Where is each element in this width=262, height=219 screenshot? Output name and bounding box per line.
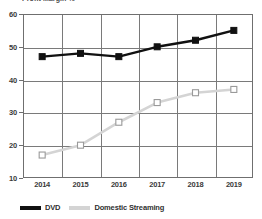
x-axis-tick-label: 2018 [188,180,204,189]
data-point-marker [116,54,122,60]
line-chart: Profit Margin % 102030405060 20142015201… [0,0,262,219]
data-point-marker [116,119,122,125]
series-line [42,30,234,56]
legend-swatch-icon [69,206,90,210]
legend-item[interactable]: Domestic Streaming [69,203,164,212]
chart-legend: DVDDomestic Streaming [20,203,164,212]
data-point-marker [39,54,45,60]
data-point-marker [154,100,160,106]
y-axis-tick-label: 30 [9,108,17,117]
series-layer [23,14,253,178]
x-axis: 201420152016201720182019 [23,180,253,192]
x-axis-tick-label: 2017 [149,180,165,189]
x-axis-tick-label: 2019 [226,180,242,189]
data-point-marker [39,152,45,158]
chart-title: Profit Margin % [22,0,75,2]
legend-swatch-icon [20,206,41,210]
data-point-marker [193,37,199,43]
y-axis-tick-mark [19,178,23,179]
data-point-marker [231,27,237,33]
y-axis-tick-label: 50 [9,42,17,51]
y-axis-tick-label: 60 [9,10,17,19]
legend-label: Domestic Streaming [94,203,164,212]
x-axis-tick-label: 2015 [73,180,89,189]
y-axis: 102030405060 [0,14,21,178]
x-axis-tick-label: 2014 [34,180,50,189]
y-axis-tick-label: 20 [9,141,17,150]
y-axis-tick-label: 40 [9,75,17,84]
series-line [42,89,234,155]
y-axis-tick-label: 10 [9,174,17,183]
data-point-marker [78,50,84,56]
data-point-marker [231,86,237,92]
data-point-marker [193,90,199,96]
legend-label: DVD [45,203,60,212]
x-axis-tick-label: 2016 [111,180,127,189]
data-point-marker [154,44,160,50]
legend-item[interactable]: DVD [20,203,60,212]
data-point-marker [78,142,84,148]
